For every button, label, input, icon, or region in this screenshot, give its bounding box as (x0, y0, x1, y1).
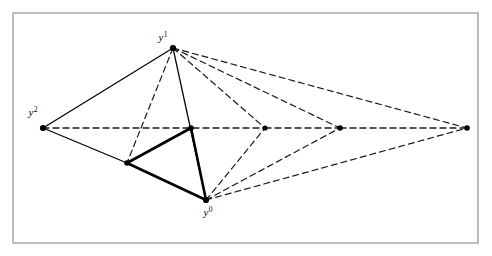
vertex-dot-y1 (170, 45, 176, 51)
vertex-dot-p3 (262, 125, 267, 130)
vertex-dot-y2 (40, 125, 46, 131)
vertex-dot-p4 (337, 125, 343, 131)
vertex-dot-y0 (203, 197, 209, 203)
geometry-diagram: y1y2y0 (0, 0, 492, 256)
figure-page: y1y2y0 (0, 0, 492, 256)
vertex-dot-p2 (124, 160, 130, 166)
vertex-dot-p5 (464, 125, 470, 131)
vertex-dot-p1 (188, 125, 194, 131)
